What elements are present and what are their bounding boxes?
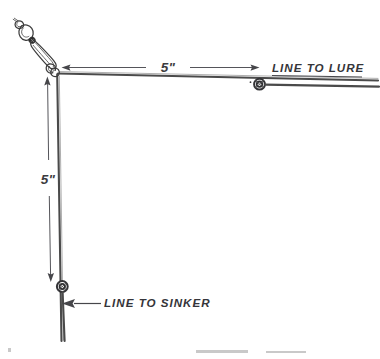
lure-eyelet-ring (250, 79, 265, 90)
barrel-swivel-and-snap-assembly (13, 18, 56, 73)
diagram-canvas: 5" 5" LINE TO LURE LINE TO SINKER (0, 0, 380, 359)
monofilament-line-to-sinker (63, 292, 65, 341)
horizontal-dimension-label: 5" (161, 60, 176, 75)
vertical-dimension-label: 5" (41, 172, 56, 187)
sinker-callout-leader (62, 299, 101, 308)
lure-callout-underline (272, 76, 362, 78)
sinker-callout-label: LINE TO SINKER (104, 296, 211, 309)
monofilament-line-to-lure (265, 85, 379, 87)
scan-speck (8, 348, 11, 352)
scan-speck (196, 350, 248, 353)
lure-callout-label: LINE TO LURE (272, 61, 365, 74)
swivel-top-ring-icon (13, 18, 23, 28)
scan-speck (266, 351, 306, 353)
sinker-eyelet-ring (57, 281, 68, 292)
spreader-rig-diagram: 5" 5" LINE TO LURE LINE TO SINKER (0, 0, 380, 359)
